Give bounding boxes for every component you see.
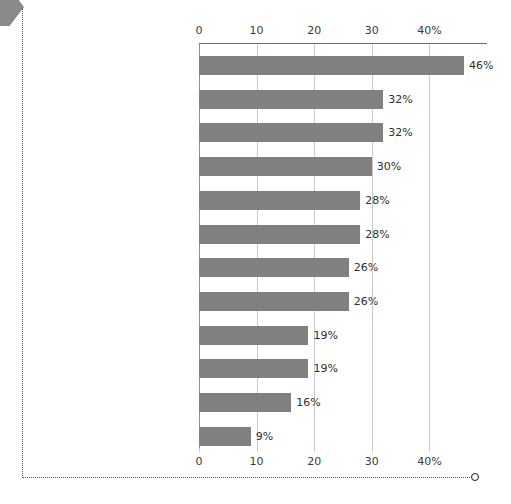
bar (199, 157, 372, 176)
bar-value-label: 26% (354, 292, 378, 311)
x-tick-label-20: 20 (307, 24, 321, 37)
x-tick-label-30: 30 (365, 24, 379, 37)
bar (199, 90, 383, 109)
bar-row: Abortion or birth control26% (199, 258, 487, 292)
bar-value-label: 16% (296, 393, 320, 412)
circle-endpoint-icon (471, 473, 479, 481)
bar (199, 225, 360, 244)
plot-area: Women's rights46%The environment and ene… (199, 44, 487, 448)
x-tick-label-0: 0 (196, 24, 203, 37)
dotted-frame-bottom (22, 477, 474, 478)
bar-row: LGBT issues28% (199, 191, 487, 225)
bar (199, 427, 251, 446)
bar (199, 191, 360, 210)
bar (199, 393, 291, 412)
bar-row: Minimum wage16% (199, 393, 487, 427)
bar-row: Gun rights or restrictions19% (199, 326, 487, 360)
bar-value-label: 32% (388, 123, 412, 142)
bar-row: In opposition to Donald Trump32% (199, 123, 487, 157)
bar-value-label: 46% (469, 56, 493, 75)
bar-value-label: 9% (256, 427, 273, 446)
bar-row: In support of Donald Trump19% (199, 359, 487, 393)
x-tick-label-10: 10 (250, 24, 264, 37)
bar-row: Immigration30% (199, 157, 487, 191)
bar (199, 123, 383, 142)
bar-value-label: 32% (388, 90, 412, 109)
bar-row: Affordable Care Act/Obamacare28% (199, 225, 487, 259)
bar-value-label: 19% (313, 326, 337, 345)
bar (199, 292, 349, 311)
dotted-frame-left (22, 8, 23, 478)
bar-row: The environment and energy issues32% (199, 90, 487, 124)
bar (199, 326, 308, 345)
bar (199, 258, 349, 277)
bar-value-label: 30% (377, 157, 401, 176)
bar-value-label: 26% (354, 258, 378, 277)
bar-value-label: 28% (365, 191, 389, 210)
bar-row: Removing Confederate monuments9% (199, 427, 487, 461)
bar-row: Police conduct26% (199, 292, 487, 326)
bar-row: Women's rights46% (199, 56, 487, 90)
chart-screenshot: 010203040% 010203040% Women's rights46%T… (0, 0, 511, 504)
bar-value-label: 28% (365, 225, 389, 244)
bar (199, 359, 308, 378)
bar-value-label: 19% (313, 359, 337, 378)
x-tick-label-40: 40% (417, 24, 441, 37)
bar (199, 56, 464, 75)
arrow-right-icon (0, 0, 24, 26)
